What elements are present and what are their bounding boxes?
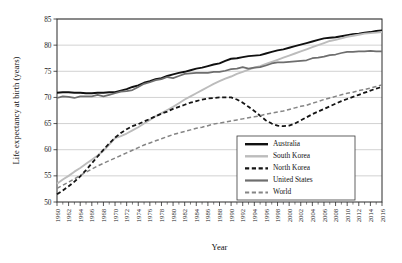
- x-tick-label: 1998: [274, 208, 281, 222]
- x-tick-label: 1984: [193, 208, 200, 222]
- y-tick-label: 75: [44, 67, 52, 76]
- y-tick-label: 55: [44, 171, 52, 180]
- x-tick-label: 2006: [321, 208, 328, 222]
- x-tick-label: 2016: [379, 208, 386, 222]
- y-tick-label: 50: [44, 198, 52, 207]
- x-tick-label: 1980: [170, 208, 177, 222]
- legend-label-south-korea: South Korea: [273, 151, 311, 160]
- x-tick-label: 1988: [216, 208, 223, 222]
- y-axis-title: Life expectancy at birth (years): [11, 56, 21, 164]
- x-tick-label: 2000: [286, 208, 293, 222]
- x-tick-label: 1962: [65, 209, 72, 222]
- x-tick-label: 2008: [332, 208, 339, 222]
- x-tick-label: 1978: [158, 208, 165, 222]
- x-tick-label: 2012: [355, 209, 362, 222]
- x-tick-label: 1994: [251, 208, 258, 222]
- x-tick-label: 1996: [263, 208, 270, 222]
- series-line-united-states: [57, 51, 382, 98]
- chart-figure: 5055606570758085196019621964196619681970…: [0, 0, 402, 263]
- x-tick-label: 1968: [100, 208, 107, 222]
- x-tick-label: 2010: [344, 208, 351, 222]
- legend-label-united-states: United States: [273, 175, 313, 184]
- x-tick-label: 1992: [239, 209, 246, 222]
- line-chart: 5055606570758085196019621964196619681970…: [0, 0, 402, 263]
- x-axis-title: Year: [212, 242, 228, 252]
- x-tick-label: 1964: [77, 208, 84, 222]
- legend-label-australia: Australia: [273, 139, 301, 148]
- y-tick-label: 65: [44, 119, 52, 128]
- y-tick-label: 60: [44, 145, 52, 154]
- legend-label-world: World: [273, 187, 292, 196]
- y-tick-label: 80: [44, 41, 52, 50]
- x-tick-label: 1966: [88, 208, 95, 222]
- x-tick-label: 1986: [204, 208, 211, 222]
- x-tick-label: 1974: [135, 208, 142, 222]
- y-tick-label: 70: [44, 93, 52, 102]
- x-tick-label: 1970: [112, 208, 119, 222]
- x-tick-label: 1972: [123, 209, 130, 222]
- x-tick-label: 2004: [309, 208, 316, 222]
- legend-label-north-korea: North Korea: [273, 163, 311, 172]
- x-tick-label: 1990: [228, 208, 235, 222]
- y-tick-label: 85: [44, 15, 52, 24]
- x-tick-label: 2002: [297, 209, 304, 222]
- x-tick-label: 2014: [367, 208, 374, 222]
- x-tick-label: 1960: [54, 208, 61, 222]
- x-tick-label: 1976: [146, 208, 153, 222]
- x-tick-label: 1982: [181, 209, 188, 222]
